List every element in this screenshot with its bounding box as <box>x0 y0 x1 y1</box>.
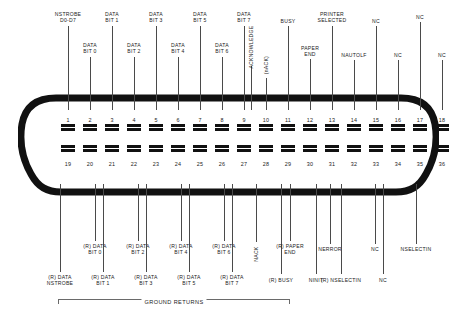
pin-contact-bar <box>83 124 97 127</box>
bottom-label-12: NERROR <box>318 246 342 252</box>
top-leader-2 <box>112 26 113 110</box>
top-vertical-label-1: (nACK) <box>263 56 269 74</box>
pin-contact-bar <box>237 149 251 152</box>
pin-contact-bar <box>281 124 295 127</box>
pin-contact-bar <box>215 149 229 152</box>
bottom-leader-1 <box>95 184 96 241</box>
pin-contact-bar <box>61 124 75 127</box>
pin-contact-bar <box>259 124 273 127</box>
pin-contact-bar <box>127 128 141 131</box>
pin-number-26: 26 <box>214 161 230 167</box>
bottom-label-14: NC <box>371 246 379 252</box>
pin-contact-bar <box>391 124 405 127</box>
top-leader-13 <box>376 26 377 110</box>
pin-number-20: 20 <box>82 161 98 167</box>
pin-number-23: 23 <box>148 161 164 167</box>
top-vertical-label-0: ACKNOWLEDGE <box>248 26 254 69</box>
pin-number-3: 3 <box>104 117 120 123</box>
pin-26 <box>215 145 229 152</box>
pin-16 <box>391 124 405 131</box>
top-leader-14 <box>398 60 399 110</box>
top-leader-9 <box>288 26 289 110</box>
pin-contact-bar <box>259 128 273 131</box>
pin-17 <box>413 124 427 131</box>
bottom-leader-8 <box>232 184 233 272</box>
pin-9 <box>237 124 251 131</box>
top-label-16: NC <box>438 52 446 58</box>
top-leader-1 <box>90 57 91 110</box>
pin-number-19: 19 <box>60 161 76 167</box>
pin-contact-bar <box>83 128 97 131</box>
top-leader-8 <box>244 26 245 110</box>
pin-contact-bar <box>303 128 317 131</box>
pin-35 <box>413 145 427 152</box>
pin-27 <box>237 145 251 152</box>
pin-contact-bar <box>83 149 97 152</box>
pin-7 <box>193 124 207 131</box>
top-label-7: DATA BIT 6 <box>215 42 229 54</box>
pin-contact-bar <box>171 149 185 152</box>
pin-contact-bar <box>61 149 75 152</box>
pin-number-17: 17 <box>412 117 428 123</box>
top-label-13: NC <box>372 18 380 24</box>
pin-number-32: 32 <box>346 161 362 167</box>
pin-contact-bar <box>413 145 427 148</box>
pin-5 <box>149 124 163 131</box>
bottom-leader-10 <box>290 184 291 241</box>
pin-1 <box>61 124 75 131</box>
pin-number-27: 27 <box>236 161 252 167</box>
top-vertical-leader-1 <box>266 78 267 110</box>
pin-contact-bar <box>149 149 163 152</box>
ground-returns-tick-left <box>58 299 59 304</box>
pin-contact-bar <box>127 149 141 152</box>
top-leader-6 <box>200 26 201 110</box>
pin-contact-bar <box>347 145 361 148</box>
pin-contact-bar <box>193 128 207 131</box>
pin-contact-bar <box>237 124 251 127</box>
bottom-label-15: NC <box>379 277 387 283</box>
pin-number-14: 14 <box>346 117 362 123</box>
pin-contact-bar <box>215 145 229 148</box>
pin-contact-bar <box>369 149 383 152</box>
bottom-leader-12 <box>330 184 331 244</box>
bottom-leader-11 <box>316 184 317 274</box>
top-leader-15 <box>420 22 421 110</box>
bottom-label-4: (R) DATA BIT 3 <box>134 274 157 286</box>
pin-contact-bar <box>193 149 207 152</box>
bottom-label-16: NSELECTIN <box>401 246 432 252</box>
bottom-leader-3 <box>138 184 139 241</box>
connector-pinout-diagram: NSTROBE D0-D7DATA BIT 0DATA BIT 1DATA BI… <box>0 0 457 317</box>
pin-15 <box>369 124 383 131</box>
pin-number-18: 18 <box>434 117 450 123</box>
pin-number-34: 34 <box>390 161 406 167</box>
top-vertical-leader-0 <box>251 66 252 110</box>
pin-24 <box>171 145 185 152</box>
pin-contact-bar <box>369 124 383 127</box>
top-leader-11 <box>332 26 333 110</box>
top-label-11: PRINTER SELECTED <box>318 11 347 23</box>
pin-number-30: 30 <box>302 161 318 167</box>
bottom-label-0: (R) DATA NSTROBE <box>47 274 73 286</box>
pin-4 <box>127 124 141 131</box>
pin-contact-bar <box>347 149 361 152</box>
pin-contact-bar <box>347 128 361 131</box>
top-leader-0 <box>68 26 69 110</box>
pin-number-2: 2 <box>82 117 98 123</box>
pin-31 <box>325 145 339 152</box>
pin-number-7: 7 <box>192 117 208 123</box>
ground-returns-label: GROUND RETURNS <box>141 299 206 305</box>
pin-number-9: 9 <box>236 117 252 123</box>
pin-contact-bar <box>215 124 229 127</box>
pin-14 <box>347 124 361 131</box>
bottom-label-8: (R) DATA BIT 7 <box>220 274 243 286</box>
pin-number-33: 33 <box>368 161 384 167</box>
pin-contact-bar <box>413 149 427 152</box>
pin-number-36: 36 <box>434 161 450 167</box>
pin-21 <box>105 145 119 152</box>
pin-contact-bar <box>215 128 229 131</box>
pin-contact-bar <box>259 145 273 148</box>
pin-number-10: 10 <box>258 117 274 123</box>
top-label-14: NC <box>394 52 402 58</box>
bottom-label-2: (R) DATA BIT 1 <box>91 274 114 286</box>
bottom-vertical-label-0: NACK <box>253 247 259 262</box>
